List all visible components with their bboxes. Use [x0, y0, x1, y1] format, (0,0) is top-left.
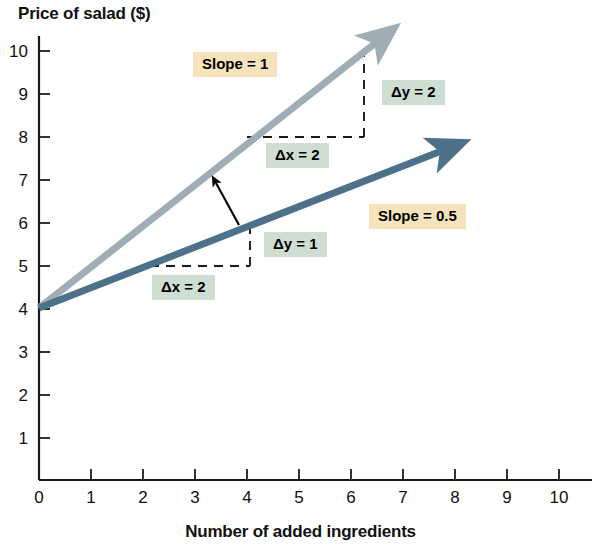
annotation-delta-x-2-upper: Δx = 2: [266, 143, 329, 168]
chart-canvas: Price of salad ($) Number of added ingre…: [0, 0, 601, 552]
line-slope-05: [39, 150, 444, 308]
annotation-slope-1: Slope = 1: [193, 52, 277, 77]
pointer-arrow-icon: [216, 183, 239, 225]
annotation-delta-y-2: Δy = 2: [382, 80, 445, 105]
annotation-slope-05: Slope = 0.5: [369, 204, 466, 229]
line-slope-1: [39, 41, 378, 308]
annotation-delta-y-1: Δy = 1: [264, 232, 327, 257]
annotation-delta-x-2-lower: Δx = 2: [152, 275, 215, 300]
y-axis-ticks: [39, 51, 50, 438]
chart-plot-svg: [0, 0, 601, 552]
x-axis-ticks: [91, 469, 559, 480]
